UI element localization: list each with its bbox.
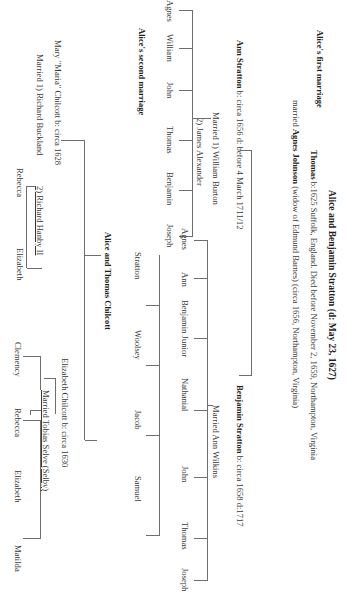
chilcott-child: Jacob [133, 410, 143, 430]
connector-line [194, 580, 208, 581]
ann-child: William [165, 34, 175, 62]
connector-line [27, 186, 35, 187]
connector-line [61, 140, 85, 141]
benjamin-marriage: Married Ann Wilkins [211, 405, 221, 478]
connector-line [55, 378, 56, 414]
elizabeth-marriage: Married Tobias Selve (Selby) [41, 390, 51, 491]
ann-child: Agnes [165, 0, 175, 22]
benjamin-name: Benjamin Stratton [235, 385, 245, 454]
elizabeth-child: Matilda [13, 545, 23, 572]
mary-marriage-1: Married 1) Richard Buckland [35, 54, 45, 155]
connector-line [194, 240, 208, 241]
elizabeth-child: Elizabeth [13, 470, 23, 502]
benjamin-details: b: circa 1658 d:1717 [235, 454, 245, 527]
elizabeth-child: Clemency [13, 342, 23, 377]
ann-details: b: circa 1656 d: before 4 March 1711/12 [235, 88, 245, 229]
diagram-title: Alice and Benjamin Stratton (d: May 23, … [327, 190, 337, 380]
connector-line [179, 48, 193, 49]
connector-line [85, 440, 97, 441]
connector-line [193, 118, 211, 119]
connector-line [194, 410, 208, 411]
connector-line [239, 375, 252, 376]
connector-line [194, 538, 208, 539]
chilcott-child: Samuel [133, 476, 143, 502]
connector-line [44, 378, 56, 379]
chilcott-couple: Alice and Thomas Chilcott [103, 232, 113, 330]
connector-line [179, 190, 193, 191]
thomas-entry: Thomas b:1625 Suffolk, England. Died bef… [309, 150, 319, 460]
connector-line [84, 140, 85, 440]
ann-marriage-2: 2) James Alexander [195, 118, 205, 186]
connector-line [194, 477, 208, 478]
connector-line [23, 420, 41, 421]
connector-line [192, 10, 193, 236]
connector-line [23, 538, 41, 539]
ann-child: Joseph [165, 224, 175, 247]
benjamin-child: John [180, 466, 190, 482]
benjamin-child: Nathanial [180, 378, 190, 411]
mary-marriage-2: 2) Richard Hanby II [35, 186, 45, 255]
benjamin-child: Agnes [180, 228, 190, 250]
connector-line [208, 405, 213, 406]
connector-line [179, 90, 193, 91]
connector-line [194, 338, 208, 339]
benjamin-child: Thomas [180, 522, 190, 550]
connector-line [146, 365, 160, 366]
connector-line [40, 356, 41, 390]
mary-child: Elizabeth [15, 248, 25, 280]
connector-line [85, 255, 101, 256]
thomas-spouse-entry: married Agnes Johnson (widow of Edmund B… [291, 100, 301, 408]
benjamin-child: Joseph [180, 568, 190, 591]
thomas-details: b:1625 Suffolk, England. Died before Nov… [309, 180, 319, 460]
family-tree-diagram: Alice and Benjamin Stratton (d: May 23, … [0, 0, 347, 599]
connector-line [251, 150, 252, 375]
ann-child: Benjamin [165, 172, 175, 205]
connector-line [31, 410, 41, 411]
benjamin-stratton-entry: Benjamin Stratton b: circa 1658 d:1717 [235, 385, 245, 527]
connector-line [146, 535, 160, 536]
connector-line [40, 420, 41, 538]
benjamin-child: Benjamin Junior [180, 300, 190, 357]
mary-chilcott-entry: Mary "Maria" Chilcott b: circa 1628 [53, 40, 63, 165]
spouse-details: (widow of Edmund Barnes) (circa 1656, No… [291, 184, 301, 408]
connector-line [179, 10, 193, 11]
connector-line [159, 255, 160, 535]
second-marriage-heading: Alice's second marriage [137, 28, 147, 115]
elizabeth-child: Rebecca [13, 408, 23, 437]
benjamin-child: Ann [180, 272, 190, 287]
elizabeth-chilcott-entry: Elizabeth Chilcott b: circa 1630 [60, 358, 70, 467]
connector-line [26, 186, 27, 268]
ann-child: John [165, 82, 175, 98]
ann-child: Thomas [165, 126, 175, 154]
thomas-name: Thomas [309, 150, 319, 180]
connector-line [194, 278, 208, 279]
connector-line [146, 305, 160, 306]
spouse-prefix: married [291, 100, 301, 129]
connector-line [146, 435, 160, 436]
spouse-name: Agnes Johnson [291, 129, 301, 184]
connector-line [23, 356, 41, 357]
chilcott-child: Stratton [133, 252, 143, 279]
connector-line [27, 268, 42, 269]
ann-name: Ann Stratton [235, 40, 245, 88]
ann-stratton-entry: Ann Stratton b: circa 1656 d: before 4 M… [235, 40, 245, 229]
mary-child: Rebecca [15, 168, 25, 197]
ann-marriage-1: Married 1) William Burton [211, 112, 221, 205]
chilcott-child: Woolsey [133, 330, 143, 360]
connector-line [179, 140, 193, 141]
first-marriage-heading: Alice's first marriage [315, 30, 325, 108]
